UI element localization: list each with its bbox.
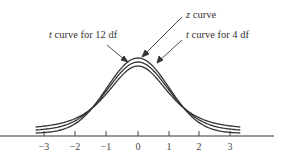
t-vs-z-density-chart: −3 −2 −1 0 1 2 3 z curve t curve for 12 …: [0, 0, 281, 159]
arrow-t4-curve: [159, 40, 182, 61]
arrowhead-icon: [121, 56, 128, 62]
tick-label: 2: [197, 141, 202, 152]
x-tick-labels: −3 −2 −1 0 1 2 3: [39, 141, 233, 152]
label-z-curve: z curve: [185, 9, 216, 20]
tick-label: −2: [70, 141, 81, 152]
t4-curve: [36, 66, 241, 127]
tick-label: −3: [39, 141, 50, 152]
x-ticks: [44, 131, 230, 136]
label-t4-curve: t curve for 4 df: [186, 29, 249, 40]
density-curves: [36, 58, 241, 133]
arrow-z-curve: [144, 17, 182, 55]
arrowhead-icon: [157, 56, 163, 63]
tick-label: 1: [167, 141, 172, 152]
tick-label: −1: [101, 141, 112, 152]
tick-label: 3: [228, 141, 233, 152]
label-t12-curve: t curve for 12 df: [49, 29, 118, 40]
t12-curve: [36, 62, 241, 130]
annotation-arrows: [107, 17, 182, 63]
tick-label: 0: [136, 141, 141, 152]
